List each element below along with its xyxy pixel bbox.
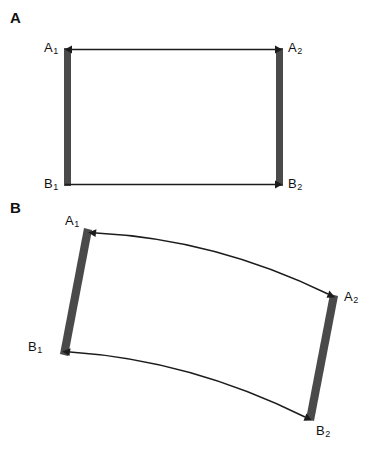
figure-canvas: A <box>0 0 382 449</box>
panel-b-left-bar <box>60 228 92 356</box>
panel-a-label-b1: B1 <box>44 177 58 190</box>
panel-a-label-b2: B2 <box>288 177 302 190</box>
panel-b-letter: B <box>10 200 21 215</box>
panel-a-label-a1: A1 <box>44 41 58 54</box>
panel-a-left-bar <box>64 48 71 186</box>
panel-b-bottom-curved-arrow <box>70 352 305 417</box>
panel-a-graphics <box>0 0 382 449</box>
panel-a-label-a2: A2 <box>288 41 302 54</box>
panel-b-label-b2: B2 <box>316 424 330 437</box>
panel-b-top-curved-arrow <box>96 233 328 294</box>
panel-b-label-b1: B1 <box>28 340 42 353</box>
panel-b-right-bar <box>306 294 338 421</box>
panel-b-label-a2: A2 <box>344 290 358 303</box>
panel-b-label-a1: A1 <box>65 214 79 227</box>
panel-a-right-bar <box>276 48 283 186</box>
